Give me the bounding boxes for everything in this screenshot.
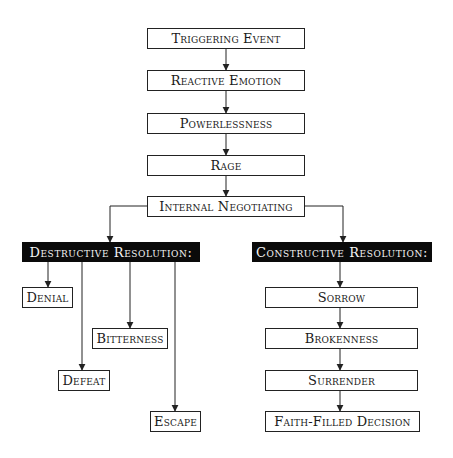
node-internal-negotiating: Internal Negotiating bbox=[147, 196, 305, 217]
node-label: Powerlessness bbox=[180, 116, 273, 131]
heading-label: Constructive Resolution: bbox=[256, 245, 428, 260]
node-label: Sorrow bbox=[318, 290, 366, 305]
node-denial: Denial bbox=[22, 287, 73, 308]
node-bitterness: Bitterness bbox=[92, 328, 168, 349]
node-faith-filled-decision: Faith-Filled Decision bbox=[265, 411, 420, 432]
node-sorrow: Sorrow bbox=[265, 287, 418, 308]
node-label: Bitterness bbox=[96, 331, 163, 346]
node-reactive-emotion: Reactive Emotion bbox=[147, 70, 305, 91]
node-rage: Rage bbox=[147, 155, 305, 176]
node-powerlessness: Powerlessness bbox=[147, 113, 305, 134]
node-label: Faith-Filled Decision bbox=[274, 414, 410, 429]
node-triggering-event: Triggering Event bbox=[147, 28, 305, 49]
node-defeat: Defeat bbox=[58, 370, 110, 391]
resolution-flow-diagram: Triggering Event Reactive Emotion Powerl… bbox=[0, 0, 453, 458]
node-label: Rage bbox=[211, 158, 242, 173]
node-label: Brokenness bbox=[305, 331, 379, 346]
destructive-resolution-heading: Destructive Resolution: bbox=[22, 242, 200, 262]
node-brokenness: Brokenness bbox=[265, 328, 418, 349]
node-label: Surrender bbox=[308, 373, 375, 388]
constructive-resolution-heading: Constructive Resolution: bbox=[252, 242, 432, 262]
heading-label: Destructive Resolution: bbox=[29, 245, 192, 260]
node-surrender: Surrender bbox=[265, 370, 418, 391]
node-label: Reactive Emotion bbox=[171, 73, 282, 88]
node-label: Defeat bbox=[62, 373, 105, 388]
node-label: Triggering Event bbox=[171, 31, 280, 46]
node-label: Escape bbox=[154, 414, 197, 429]
node-label: Denial bbox=[26, 290, 68, 305]
node-label: Internal Negotiating bbox=[159, 199, 293, 214]
node-escape: Escape bbox=[150, 411, 201, 432]
